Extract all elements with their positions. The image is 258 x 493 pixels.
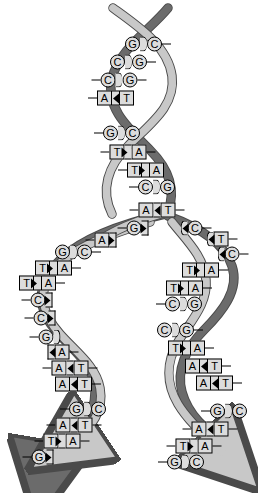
dna-replication-figure: GCCGCGATGCTATACGATGACTCGCTATACCGAATATGCA…	[0, 0, 258, 493]
dna-helix-illustration	[0, 0, 258, 493]
daughter-left-dark-strand	[41, 214, 165, 468]
